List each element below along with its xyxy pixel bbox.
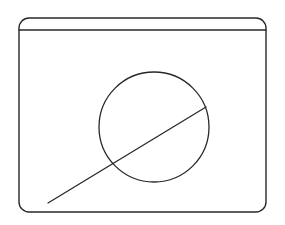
window-content-area[interactable] xyxy=(19,30,266,212)
window-titlebar[interactable] xyxy=(19,18,266,30)
wireframe-sketch-svg xyxy=(0,0,285,225)
sketch-canvas-root xyxy=(0,0,285,225)
